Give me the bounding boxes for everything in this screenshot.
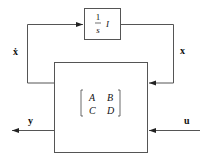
u-label: u: [184, 115, 190, 126]
integrator-block: [85, 9, 121, 40]
integrator-numerator: 1: [96, 12, 101, 22]
xdot-signal-line: [28, 25, 84, 84]
state-space-block: [55, 63, 148, 153]
matrix-left-bracket: [81, 90, 83, 116]
integrator-identity: I: [105, 19, 110, 29]
block-diagram: 1 s I A B C D ẋ x y u: [0, 0, 208, 160]
integrator-denominator: s: [96, 25, 100, 35]
matrix-b: B: [107, 92, 113, 103]
matrix-a: A: [88, 92, 96, 103]
y-label: y: [28, 115, 33, 126]
matrix-d: D: [106, 105, 115, 116]
x-label: x: [180, 45, 185, 56]
matrix-right-bracket: [118, 90, 120, 116]
matrix-c: C: [89, 105, 96, 116]
xdot-label: ẋ: [13, 46, 18, 57]
